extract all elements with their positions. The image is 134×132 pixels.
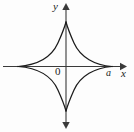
- y-axis-arrowhead-down-icon: [62, 122, 69, 129]
- origin-label: 0: [55, 66, 61, 77]
- y-axis-arrowhead-up-icon: [62, 3, 69, 10]
- y-axis-label: y: [53, 1, 58, 12]
- x-axis-label: x: [121, 68, 126, 79]
- astroid-arc-quadrant-1: [66, 22, 112, 67]
- astroid-figure: y x a 0: [0, 0, 134, 132]
- astroid-arc-quadrant-2: [18, 22, 66, 67]
- x-intercept-label-a: a: [106, 68, 111, 78]
- astroid-plot-svg: [0, 0, 134, 132]
